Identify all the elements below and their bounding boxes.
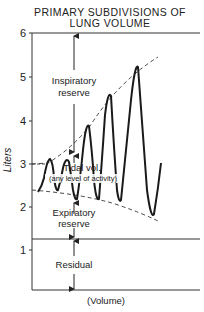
svg-text:3: 3 [20, 158, 26, 170]
lung-volume-diagram: 6 5 4 3 2 1 Liters Inspiratory reserve T… [0, 0, 204, 312]
label-tidal-volume: Tidal vol. [63, 162, 101, 173]
label-expiratory-reserve-1: Expiratory [53, 207, 96, 218]
label-inspiratory-reserve-2: reserve [58, 87, 90, 98]
label-expiratory-reserve-2: reserve [58, 218, 90, 229]
svg-text:5: 5 [20, 71, 26, 83]
label-residual: Residual [56, 259, 93, 270]
svg-text:2: 2 [20, 201, 26, 213]
x-axis-label: (Volume) [87, 295, 125, 306]
label-tidal-activity: (any level of activity) [49, 174, 117, 183]
label-inspiratory-reserve-1: Inspiratory [52, 75, 97, 86]
y-tick-labels: 6 5 4 3 2 1 [20, 27, 26, 256]
svg-text:6: 6 [20, 27, 26, 39]
svg-text:4: 4 [20, 115, 26, 127]
y-axis-label: Liters [2, 148, 13, 172]
svg-text:1: 1 [20, 244, 26, 256]
